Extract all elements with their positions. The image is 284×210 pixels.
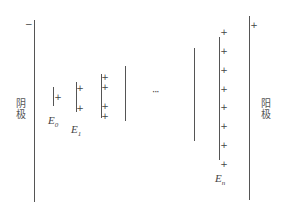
plus-sign: + — [101, 83, 109, 92]
plus-sign: + — [101, 73, 109, 82]
plate-e0-label: E0 — [48, 115, 58, 131]
label-sub: 0 — [55, 121, 59, 129]
plus-sign: + — [220, 141, 228, 150]
label-main: E — [71, 123, 78, 135]
plus-sign: + — [54, 93, 62, 102]
cathode-label: 阴极 — [13, 98, 25, 120]
ellipsis: ··· — [152, 86, 159, 97]
label-main: E — [215, 172, 222, 184]
plate-e1-label: E1 — [71, 124, 81, 140]
anode-line — [249, 16, 250, 200]
plus-sign: + — [220, 122, 228, 131]
label-main: E — [48, 114, 55, 126]
electrode-diagram: − 阴极 + E0 + + E1 + + + + ··· + + + + + +… — [0, 0, 284, 210]
cathode-minus-sign: − — [25, 20, 33, 29]
plate-en-minus-1 — [194, 48, 195, 141]
plus-sign: + — [220, 66, 228, 75]
plus-sign: + — [76, 104, 84, 113]
cathode-line — [34, 20, 35, 202]
anode-label: 阳极 — [258, 98, 270, 120]
label-sub: 1 — [78, 130, 82, 138]
plus-sign: + — [220, 103, 228, 112]
plus-sign: + — [220, 28, 228, 37]
plus-sign: + — [220, 47, 228, 56]
plate-e3 — [125, 66, 126, 121]
plus-sign: + — [220, 85, 228, 94]
anode-plus-sign: + — [250, 21, 258, 30]
plus-sign: + — [76, 84, 84, 93]
plate-en-label: En — [215, 173, 225, 189]
plus-sign: + — [220, 160, 228, 169]
label-sub: n — [222, 179, 226, 187]
plus-sign: + — [101, 112, 109, 121]
plus-sign: + — [101, 102, 109, 111]
